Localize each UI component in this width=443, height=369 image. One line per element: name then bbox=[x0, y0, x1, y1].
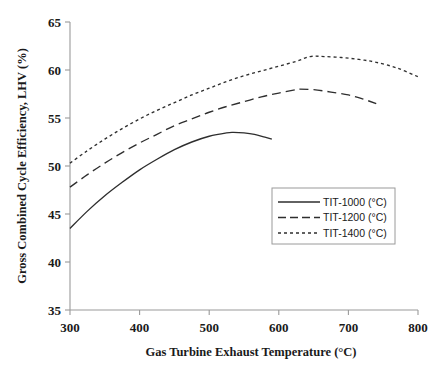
chart-figure: 35404550556065 300400500600700800 TIT-10… bbox=[0, 0, 443, 369]
x-axis-title: Gas Turbine Exhaust Temperature (°C) bbox=[145, 345, 356, 359]
chart-background bbox=[0, 0, 443, 369]
legend-label-0: TIT-1000 (°C) bbox=[323, 196, 387, 208]
x-tick-label: 700 bbox=[339, 320, 359, 335]
y-tick-label: 60 bbox=[48, 63, 61, 78]
y-tick-label: 35 bbox=[48, 303, 62, 318]
x-tick-label: 800 bbox=[408, 320, 428, 335]
y-tick-label: 50 bbox=[48, 159, 61, 174]
y-tick-label: 45 bbox=[48, 207, 62, 222]
y-tick-label: 40 bbox=[48, 255, 61, 270]
chart-legend: TIT-1000 (°C)TIT-1200 (°C)TIT-1400 (°C) bbox=[272, 188, 395, 244]
x-tick-label: 300 bbox=[60, 320, 80, 335]
x-tick-label: 500 bbox=[199, 320, 219, 335]
y-axis-title: Gross Combined Cycle Efficiency, LHV (%) bbox=[15, 48, 29, 284]
legend-label-1: TIT-1200 (°C) bbox=[323, 211, 387, 223]
x-tick-label: 600 bbox=[269, 320, 289, 335]
line-chart: 35404550556065 300400500600700800 TIT-10… bbox=[0, 0, 443, 369]
y-tick-label: 65 bbox=[48, 15, 62, 30]
legend-label-2: TIT-1400 (°C) bbox=[323, 227, 387, 239]
y-tick-label: 55 bbox=[48, 111, 62, 126]
x-tick-label: 400 bbox=[130, 320, 150, 335]
